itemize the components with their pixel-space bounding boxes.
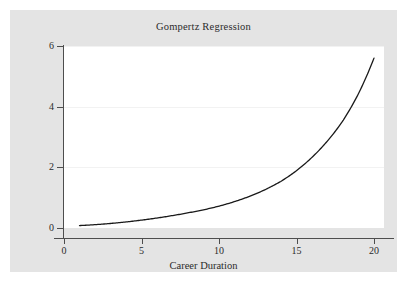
- graph-panel: Gompertz Regression 6 4 2 0 0 5 10 15 20…: [10, 10, 397, 272]
- regression-curve-svg: [10, 10, 397, 272]
- gompertz-regression-figure: Gompertz Regression 6 4 2 0 0 5 10 15 20…: [0, 0, 407, 284]
- gompertz-curve: [80, 58, 375, 225]
